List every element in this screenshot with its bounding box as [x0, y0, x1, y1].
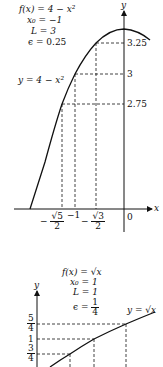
top-xtick-sqrt5-den: 2	[53, 222, 61, 231]
bottom-curve-sqrt	[50, 312, 155, 367]
top-param-L: L = 3	[31, 27, 56, 36]
top-xtick-zero: 0	[127, 213, 133, 222]
top-xtick-neg1: −1	[67, 211, 80, 220]
bottom-epsilon-prefix: ϵ =	[73, 302, 88, 312]
top-curve-parabola	[30, 29, 150, 209]
top-xtick-sqrt3-frac: √3 2	[91, 212, 104, 231]
bottom-ytick-5-4-den: 4	[27, 324, 35, 333]
top-ytick-2.75: 2.75	[127, 100, 147, 109]
bottom-curve-label: y = √x	[127, 306, 156, 315]
bottom-ytick-5-4-frac: 5 4	[27, 314, 35, 333]
bottom-epsilon-frac: 1 4	[91, 298, 99, 317]
top-xtick-neg-sqrt3-over-2: − √3 2	[81, 212, 105, 231]
top-xtick-neg-sqrt5-sign: −	[40, 216, 48, 226]
top-axis-label-y: y	[121, 1, 126, 10]
bottom-param-L: L = 1	[73, 288, 98, 297]
top-xtick-sqrt3-den: 2	[94, 222, 102, 231]
top-ytick-3: 3	[127, 70, 133, 79]
bottom-param-x0: x₀ = 1	[70, 278, 98, 287]
top-ytick-3.25: 3.25	[127, 39, 147, 48]
bottom-ytick-3-4-den: 4	[27, 354, 35, 363]
top-param-f: f(x) = 4 − x²	[19, 5, 75, 14]
top-axis-label-x: x	[154, 204, 159, 213]
top-xtick-sqrt5-frac: √5 2	[50, 212, 63, 231]
top-param-epsilon: ϵ = 0.25	[28, 38, 66, 47]
bottom-epsilon-den: 4	[91, 308, 99, 317]
bottom-ytick-3-4-frac: 3 4	[27, 344, 35, 363]
top-param-x0: x₀ = −1	[27, 16, 62, 25]
top-xtick-neg-sqrt3-sign: −	[81, 216, 89, 226]
top-curve-label: y = 4 − x²	[18, 76, 64, 85]
bottom-ytick-3-4: 3 4	[27, 344, 35, 363]
bottom-param-f: f(x) = √x	[62, 268, 102, 277]
bottom-ytick-5-4: 5 4	[27, 314, 35, 333]
bottom-axis-label-y: y	[34, 281, 39, 290]
bottom-param-epsilon: ϵ = 1 4	[73, 298, 99, 317]
top-xtick-neg-sqrt5-over-2: − √5 2	[40, 212, 64, 231]
